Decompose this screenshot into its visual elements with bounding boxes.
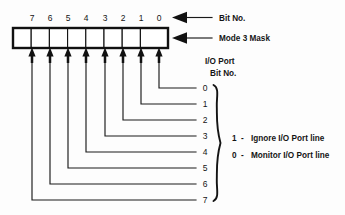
io-port-index: 1	[203, 99, 208, 109]
register-bit-label: 5	[66, 13, 71, 23]
legend-text: Ignore I/O Port line	[251, 134, 325, 143]
bit-leader-7	[32, 63, 196, 200]
legend-item: 0 - Monitor I/O Port line	[232, 151, 330, 160]
mode-3-mask-register	[13, 28, 168, 48]
legend-item: 1 - Ignore I/O Port line	[232, 134, 325, 143]
io-port-index: 2	[203, 115, 208, 125]
register-bit-label: 4	[84, 13, 89, 23]
register-bit-label: 3	[103, 13, 108, 23]
legend: 1 - Ignore I/O Port line 0 - Monitor I/O…	[232, 134, 330, 160]
register-bit-label: 0	[157, 13, 162, 23]
register-bit-label: 6	[48, 13, 53, 23]
io-port-index: 5	[203, 163, 208, 173]
bit-leader-lines	[32, 63, 196, 200]
register-bit-label: 2	[121, 13, 126, 23]
arrow-up-icon	[137, 48, 144, 64]
bit-leader-1	[141, 63, 196, 104]
legend-dash: -	[241, 151, 244, 160]
register-bit-label: 1	[139, 13, 144, 23]
arrow-left-icon	[172, 12, 187, 23]
callout-bit-no-label: Bit No.	[219, 14, 245, 23]
bit-leader-0	[159, 63, 196, 88]
io-port-index-column: 0 1 2 3 4 5 6 7	[203, 83, 208, 205]
arrow-up-icon	[155, 48, 162, 64]
io-port-bit-no-heading: I/O Port Bit No.	[205, 57, 236, 78]
callout-mode-3-mask: Mode 3 Mask	[172, 32, 270, 43]
register-bit-arrow-row	[28, 48, 162, 64]
io-port-index: 7	[203, 195, 208, 205]
io-port-heading-line1: I/O Port	[205, 57, 235, 66]
arrow-up-icon	[82, 48, 89, 64]
io-port-index: 3	[203, 131, 208, 141]
arrow-up-icon	[101, 48, 108, 64]
io-port-index: 0	[203, 83, 208, 93]
arrow-up-icon	[119, 48, 126, 64]
arrow-up-icon	[46, 48, 53, 64]
legend-value: 1	[232, 134, 237, 143]
callout-mode-3-mask-label: Mode 3 Mask	[219, 34, 270, 43]
arrow-up-icon	[28, 48, 35, 64]
grouping-brace-icon	[214, 85, 221, 201]
callout-bit-no: Bit No.	[172, 12, 245, 23]
io-port-index: 4	[203, 147, 208, 157]
io-port-heading-line2: Bit No.	[210, 69, 236, 78]
bit-leader-3	[105, 63, 196, 136]
legend-text: Monitor I/O Port line	[251, 151, 330, 160]
arrow-up-icon	[64, 48, 71, 64]
register-bit-label: 7	[30, 13, 35, 23]
io-port-index: 6	[203, 179, 208, 189]
register-bit-number-row: 7 6 5 4 3 2 1 0	[30, 13, 162, 23]
legend-value: 0	[232, 151, 237, 160]
mode-3-mask-diagram: 7 6 5 4 3 2 1 0 Bit No.	[0, 0, 345, 215]
diagram-canvas: 7 6 5 4 3 2 1 0 Bit No.	[0, 0, 345, 215]
arrow-left-icon	[172, 32, 187, 43]
legend-dash: -	[241, 134, 244, 143]
